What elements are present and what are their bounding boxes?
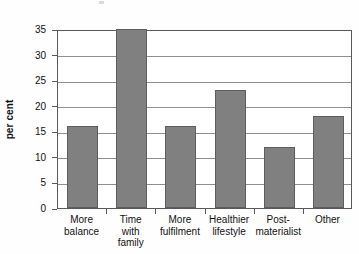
y-axis-title-label: per cent (5, 99, 16, 139)
x-axis-category-label-line: Other (303, 214, 352, 226)
y-axis-tick-label: 15 (20, 126, 46, 137)
x-axis-category-label-line: Healthier (205, 214, 254, 226)
gridline (58, 56, 351, 57)
gridline (58, 107, 351, 108)
x-axis-category-label-line: balance (57, 226, 106, 238)
x-axis-category-label: Post-materialist (254, 214, 303, 237)
plot-area (57, 30, 352, 209)
x-axis-category-label-line: family (106, 237, 155, 249)
bar (215, 90, 246, 208)
y-axis-tick-label: 25 (20, 75, 46, 86)
x-axis-category-label-line: lifestyle (205, 226, 254, 238)
x-axis-category-label: Morebalance (57, 214, 106, 237)
x-axis-category-label: Morefulfilment (155, 214, 204, 237)
gridline (58, 184, 351, 185)
bar (313, 116, 344, 208)
y-axis-tick-label: 30 (20, 50, 46, 61)
x-axis-category-label-line: materialist (254, 226, 303, 238)
gridline (58, 133, 351, 134)
bar-chart-figure: per cent 05101520253035 MorebalanceTimew… (0, 0, 359, 254)
gridline (58, 158, 351, 159)
y-axis-tick-label: 35 (20, 24, 46, 35)
y-axis-tick-label: 0 (20, 203, 46, 214)
bar (116, 29, 147, 208)
bar (165, 126, 196, 208)
x-axis-category-label-line: Post- (254, 214, 303, 226)
y-axis-tick-label: 5 (20, 177, 46, 188)
y-axis-tick-label: 20 (20, 101, 46, 112)
bar (264, 147, 295, 208)
x-axis-category-label-line: More (155, 214, 204, 226)
x-axis-category-label: Healthierlifestyle (205, 214, 254, 237)
x-axis-category-label-line: More (57, 214, 106, 226)
y-axis-tick-label: 10 (20, 152, 46, 163)
x-axis-category-label: Other (303, 214, 352, 226)
scan-artifact (99, 1, 104, 4)
x-axis-category-label-line: fulfilment (155, 226, 204, 238)
x-axis-category-label-line: with (106, 226, 155, 238)
bar (67, 126, 98, 208)
x-axis-category-label-line: Time (106, 214, 155, 226)
x-axis-category-label: Timewithfamily (106, 214, 155, 249)
gridline (58, 82, 351, 83)
y-axis-title: per cent (2, 84, 18, 154)
